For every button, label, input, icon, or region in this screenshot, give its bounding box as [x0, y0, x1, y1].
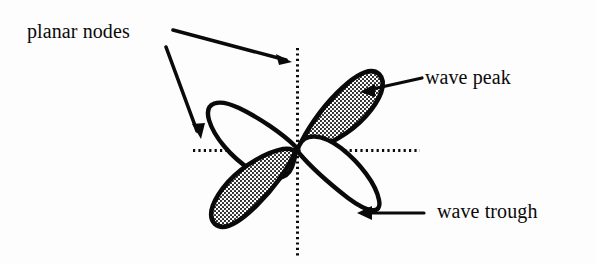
label-wave-peak: wave peak	[425, 67, 511, 87]
label-wave-trough: wave trough	[437, 201, 538, 221]
bottom-right-lobe	[298, 136, 380, 210]
arrow-planar-node-vertical	[173, 30, 292, 65]
bottom-left-lobe	[211, 149, 295, 227]
arrow-planar-node-horizontal	[166, 47, 205, 139]
label-planar-nodes: planar nodes	[27, 21, 130, 41]
orbital-diagram-figure: planar nodes wave peak wave trough	[0, 0, 596, 264]
